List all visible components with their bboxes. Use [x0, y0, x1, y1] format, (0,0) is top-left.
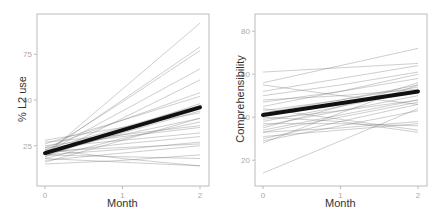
individual-line	[263, 48, 418, 82]
x-tick-label: 2	[198, 191, 203, 200]
individual-line	[263, 72, 418, 96]
individual-line	[45, 159, 200, 166]
y-tick-label: 80	[241, 27, 250, 36]
y-tick-label: 25	[23, 142, 32, 151]
y-axis-label-l2-use: % L2 use	[16, 59, 28, 139]
x-tick-label: 0	[261, 191, 266, 200]
individual-line	[263, 66, 418, 92]
x-axis-label-month: Month	[325, 197, 356, 209]
x-axis-label-month: Month	[107, 197, 138, 209]
individual-line	[45, 126, 200, 142]
panel-l2-use: 012255075 % L2 use Month	[0, 0, 218, 222]
y-axis-label-comprehensibility: Comprehensibility	[234, 44, 246, 154]
y-tick-label: 75	[23, 50, 32, 59]
y-tick-label: 20	[241, 156, 250, 165]
x-tick-label: 0	[43, 191, 48, 200]
chart-comprehensibility: 01220406080	[218, 0, 436, 222]
x-tick-label: 2	[416, 191, 421, 200]
individual-line	[263, 63, 418, 72]
chart-l2-use: 012255075	[0, 0, 218, 222]
individual-line	[263, 79, 418, 103]
panel-comprehensibility: 01220406080 Comprehensibility Month	[218, 0, 436, 222]
